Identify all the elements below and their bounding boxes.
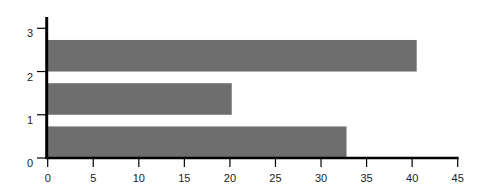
x-tick-label: 10	[133, 172, 145, 184]
bars	[48, 40, 417, 158]
x-tick-label: 45	[452, 172, 464, 184]
x-tick-label: 15	[178, 172, 190, 184]
bar-2	[48, 40, 417, 72]
y-tick-label: 1	[27, 114, 33, 126]
bar-0	[48, 126, 347, 158]
x-tick-label: 20	[224, 172, 236, 184]
x-tick-label: 40	[406, 172, 418, 184]
bar-chart: 0123 051015202530354045	[0, 0, 485, 193]
x-tick-label: 35	[360, 172, 372, 184]
x-axis: 051015202530354045	[45, 158, 464, 184]
x-tick-label: 5	[90, 172, 96, 184]
bar-1	[48, 83, 232, 115]
y-axis: 0123	[27, 17, 48, 169]
y-tick-label: 2	[27, 71, 33, 83]
x-tick-label: 30	[315, 172, 327, 184]
x-tick-label: 25	[269, 172, 281, 184]
y-tick-label: 0	[27, 157, 33, 169]
x-tick-label: 0	[45, 172, 51, 184]
y-tick-label: 3	[27, 27, 33, 39]
